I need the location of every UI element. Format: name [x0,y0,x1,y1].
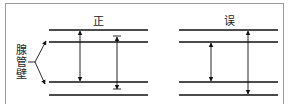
diagram-drawing [0,0,289,105]
incorrect-measure-arrows [211,31,248,94]
left-panel-lines [49,30,148,95]
correct-measure-arrows [80,31,121,89]
right-panel-lines [179,30,278,95]
side-label-pointers [28,41,46,84]
